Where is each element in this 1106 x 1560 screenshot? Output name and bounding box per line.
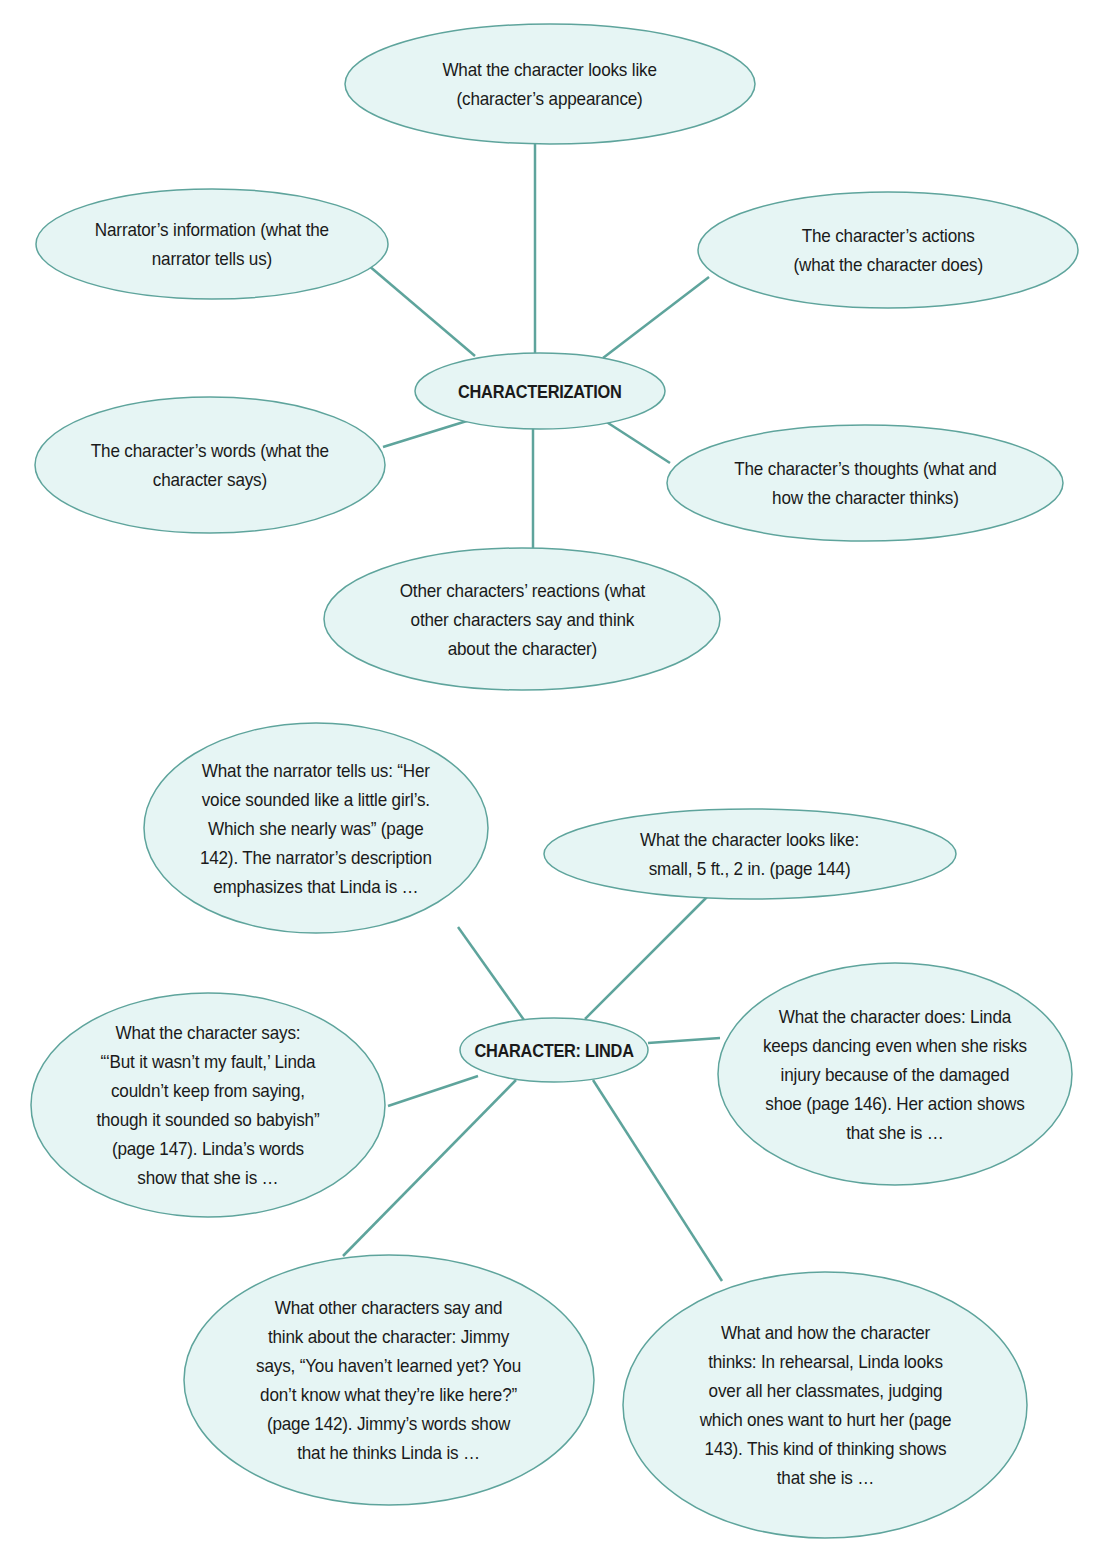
bubble-text-line: though it sounded so babyish” <box>97 1105 320 1134</box>
bubble-text-line: (page 147). Linda’s words <box>97 1134 320 1163</box>
bubble-text-line: What the character looks like: <box>641 825 860 854</box>
top-node-thoughts: The character’s thoughts (what andhow th… <box>683 425 1047 541</box>
bubble-text-line: What the character looks like <box>443 55 657 84</box>
bubble-text: What other characters say andthink about… <box>257 1293 522 1467</box>
bubble-text-line: narrator tells us) <box>95 244 329 273</box>
bubble-text-line: about the character) <box>399 634 644 663</box>
bubble-text: The character’s words (what thecharacter… <box>91 436 329 494</box>
bubble-text-line: says, “You haven’t learned yet? You <box>257 1351 522 1380</box>
bottom-center-label: CHARACTER: LINDA <box>471 1018 636 1082</box>
top-node-words: The character’s words (what thecharacter… <box>49 397 371 533</box>
bubble-text-line: What the character says: <box>97 1018 320 1047</box>
bubble-text-line: don’t know what they’re like here?” <box>257 1380 522 1409</box>
bubble-text-line: keeps dancing even when she risks <box>763 1031 1027 1060</box>
bubble-text-line: which ones want to hurt her (page <box>699 1405 951 1434</box>
bubble-text-line: Which she nearly was” (page <box>200 814 432 843</box>
bubble-text-line: show that she is … <box>97 1163 320 1192</box>
bubble-text: Narrator’s information (what thenarrator… <box>95 215 329 273</box>
bubble-text-line: The character’s words (what the <box>91 436 329 465</box>
bubble-text-line: think about the character: Jimmy <box>257 1322 522 1351</box>
bubble-text-line: (character’s appearance) <box>443 84 657 113</box>
bubble-text-line: 143). This kind of thinking shows <box>699 1434 951 1463</box>
bottom-node-says: What the character says:“‘But it wasn’t … <box>45 993 371 1217</box>
connector-thinks <box>593 1080 722 1281</box>
bubble-text: What the character says:“‘But it wasn’t … <box>97 1018 320 1192</box>
bubble-text-line: that he thinks Linda is … <box>257 1438 522 1467</box>
bubble-text-line: other characters say and think <box>399 605 644 634</box>
bubble-text-line: that she is … <box>699 1463 951 1492</box>
bubble-text-line: thinks: In rehearsal, Linda looks <box>699 1347 951 1376</box>
bubble-text: What the character looks like(character’… <box>443 55 657 113</box>
bubble-text-line: What the character does: Linda <box>763 1002 1027 1031</box>
top-node-reactions: Other characters’ reactions (whatother c… <box>340 548 704 690</box>
bubble-text: What and how the characterthinks: In reh… <box>699 1318 951 1492</box>
connector-lines <box>343 144 722 1281</box>
bubble-text-line: The character’s thoughts (what and <box>734 454 996 483</box>
connector-narrator-tells <box>458 927 524 1020</box>
connector-does <box>648 1038 720 1043</box>
bubble-text-line: “‘But it wasn’t my fault,’ Linda <box>97 1047 320 1076</box>
bubble-text-line: couldn’t keep from saying, <box>97 1076 320 1105</box>
bubble-text: The character’s thoughts (what andhow th… <box>734 454 996 512</box>
connector-says <box>388 1076 478 1106</box>
top-node-actions: The character’s actions(what the charact… <box>713 192 1063 308</box>
bubble-text-line: What and how the character <box>699 1318 951 1347</box>
bubble-text-line: What the narrator tells us: “Her <box>200 756 432 785</box>
bubble-text: The character’s actions(what the charact… <box>793 221 982 279</box>
bubble-text-line: over all her classmates, judging <box>699 1376 951 1405</box>
bubble-text-line: shoe (page 146). Her action shows <box>763 1089 1027 1118</box>
bubble-text-line: small, 5 ft., 2 in. (page 144) <box>641 854 860 883</box>
bottom-node-looks-like: What the character looks like:small, 5 f… <box>560 809 939 899</box>
connector-narrator <box>368 265 475 356</box>
bottom-node-narrator-tells: What the narrator tells us: “Hervoice so… <box>158 723 474 933</box>
bubble-text-line: character says) <box>91 465 329 494</box>
bubble-text-line: that she is … <box>763 1118 1027 1147</box>
bubble-text-line: 142). The narrator’s description <box>200 843 432 872</box>
bubble-text-line: The character’s actions <box>793 221 982 250</box>
bubble-text: Other characters’ reactions (whatother c… <box>399 576 644 663</box>
bottom-node-others-say: What other characters say andthink about… <box>200 1255 577 1505</box>
top-node-narrator: Narrator’s information (what thenarrator… <box>50 189 374 299</box>
bubble-text-line: voice sounded like a little girl’s. <box>200 785 432 814</box>
bubble-text-line: (page 142). Jimmy’s words show <box>257 1409 522 1438</box>
connector-looks-like <box>585 897 707 1019</box>
bubble-text-line: Other characters’ reactions (what <box>399 576 644 605</box>
bubble-text-line: Narrator’s information (what the <box>95 215 329 244</box>
top-node-appearance: What the character looks like(character’… <box>361 24 738 144</box>
bottom-node-does: What the character does: Lindakeeps danc… <box>732 963 1058 1185</box>
bubble-text-line: What other characters say and <box>257 1293 522 1322</box>
bubble-text-line: how the character thinks) <box>734 483 996 512</box>
bubble-text-line: injury because of the damaged <box>763 1060 1027 1089</box>
connector-actions <box>603 277 709 358</box>
bubble-text: What the character does: Lindakeeps danc… <box>763 1002 1027 1147</box>
top-center-label: CHARACTERIZATION <box>430 353 650 429</box>
bubble-text: What the character looks like:small, 5 f… <box>641 825 860 883</box>
bubble-text-line: emphasizes that Linda is … <box>200 872 432 901</box>
bubble-text-line: (what the character does) <box>793 250 982 279</box>
bubble-text: What the narrator tells us: “Hervoice so… <box>200 756 432 901</box>
bottom-node-thinks: What and how the characterthinks: In reh… <box>639 1272 1011 1538</box>
